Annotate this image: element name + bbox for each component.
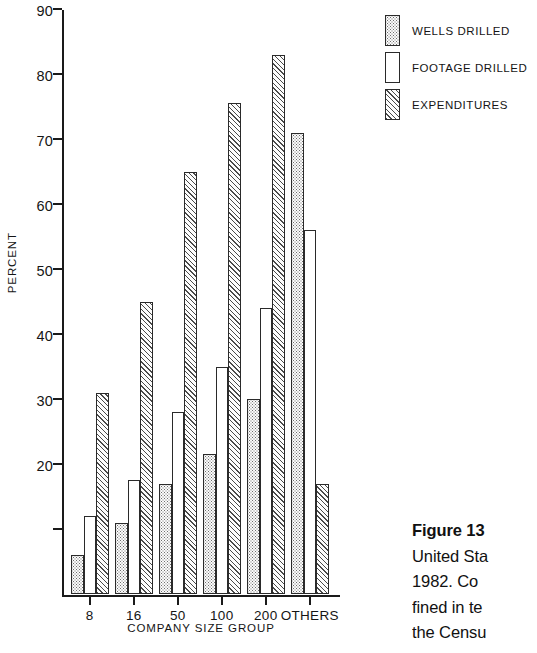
y-axis-tick <box>53 333 62 335</box>
x-axis-tick-label-100: 100 <box>210 608 233 623</box>
caption-figure-number: Figure 13 <box>412 521 484 539</box>
x-axis-tick <box>265 597 267 605</box>
y-axis-tick <box>53 73 62 75</box>
x-axis-tick-label-200: 200 <box>254 608 277 623</box>
x-axis-tick <box>221 597 223 605</box>
chart-plot-area: 2030405060708090 81650100200OTHERS <box>62 10 340 596</box>
legend-item-wells-drilled[interactable]: WELLS DRILLED <box>385 12 537 49</box>
y-axis-title: PERCENT <box>6 232 18 293</box>
x-axis-tick-label-16: 16 <box>126 608 142 623</box>
y-axis-tick-label: 40 <box>7 328 53 344</box>
x-axis-tick-label-others: OTHERS <box>281 608 339 623</box>
legend-swatch-icon <box>385 52 400 83</box>
bar-footage-drilled-50 <box>172 412 185 594</box>
bar-footage-drilled-16 <box>128 480 141 594</box>
y-axis-tick <box>53 398 62 400</box>
bar-expenditures-50 <box>184 172 197 595</box>
x-axis-title: COMPANY SIZE GROUP <box>62 622 340 634</box>
bar-expenditures-200 <box>272 55 285 595</box>
bar-wells-drilled-8 <box>71 555 84 594</box>
bar-wells-drilled-100 <box>203 454 216 594</box>
bar-wells-drilled-others <box>291 133 304 595</box>
figure-root: 2030405060708090 81650100200OTHERS PERCE… <box>0 0 537 653</box>
y-axis-tick <box>53 138 62 140</box>
chart-legend: WELLS DRILLEDFOOTAGE DRILLEDEXPENDITURES <box>385 12 537 123</box>
legend-item-footage-drilled[interactable]: FOOTAGE DRILLED <box>385 49 537 86</box>
x-axis-tick <box>309 597 311 605</box>
caption-heading: Figure 13 <box>412 518 537 544</box>
bar-footage-drilled-200 <box>260 308 273 594</box>
y-axis-line <box>62 10 64 597</box>
legend-swatch-icon <box>385 89 400 120</box>
y-axis-tick-label: 70 <box>7 133 53 149</box>
caption-line-4: the Censu <box>412 620 537 646</box>
y-axis-tick <box>53 8 62 10</box>
bar-wells-drilled-50 <box>159 484 172 595</box>
y-axis-tick-label: 80 <box>7 68 53 84</box>
x-axis-line <box>62 595 340 597</box>
bar-footage-drilled-others <box>304 230 317 594</box>
y-axis-tick-label: 90 <box>7 3 53 19</box>
bar-expenditures-100 <box>228 103 241 594</box>
bar-footage-drilled-100 <box>216 367 229 595</box>
y-axis-tick-label: 30 <box>7 393 53 409</box>
caption-line-2: 1982. Co <box>412 569 537 595</box>
y-axis-tick <box>53 463 62 465</box>
figure-caption: Figure 13 United Sta 1982. Co fined in t… <box>412 518 537 646</box>
bar-footage-drilled-8 <box>84 516 97 594</box>
caption-line-3: fined in te <box>412 595 537 621</box>
y-axis-tick <box>53 203 62 205</box>
x-axis-tick-label-8: 8 <box>86 608 94 623</box>
bar-expenditures-8 <box>96 393 109 595</box>
x-axis-tick <box>177 597 179 605</box>
bar-wells-drilled-16 <box>115 523 128 595</box>
y-axis-tick <box>53 268 62 270</box>
bar-expenditures-others <box>316 484 329 595</box>
y-axis-tick <box>53 528 62 530</box>
y-axis-tick-label: 20 <box>7 458 53 474</box>
x-axis-tick <box>89 597 91 605</box>
x-axis-tick-label-50: 50 <box>170 608 186 623</box>
bar-wells-drilled-200 <box>247 399 260 594</box>
caption-line-1: United Sta <box>412 544 537 570</box>
y-axis-tick-label: 60 <box>7 198 53 214</box>
legend-item-expenditures[interactable]: EXPENDITURES <box>385 86 537 123</box>
x-axis-tick <box>133 597 135 605</box>
legend-item-label: WELLS DRILLED <box>412 25 510 37</box>
legend-swatch-icon <box>385 15 400 46</box>
legend-item-label: FOOTAGE DRILLED <box>412 62 527 74</box>
bar-expenditures-16 <box>140 302 153 595</box>
legend-item-label: EXPENDITURES <box>412 99 508 111</box>
